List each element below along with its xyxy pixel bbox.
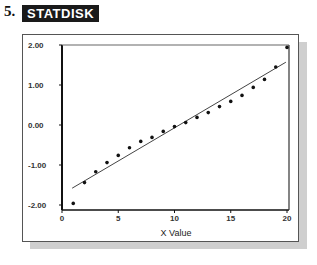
data-point: [263, 78, 267, 82]
x-tick-label: 5: [116, 214, 121, 223]
y-tick-label: -1.00: [28, 161, 47, 170]
data-point: [161, 130, 165, 134]
data-point: [173, 125, 177, 129]
data-point: [184, 121, 188, 125]
y-tick-label: 2.00: [28, 41, 44, 50]
data-point: [195, 116, 199, 120]
data-points: [71, 46, 288, 206]
data-point: [206, 111, 210, 115]
scatter-plot: 2.001.000.00-1.00-2.00 05101520 X Value: [0, 0, 317, 265]
data-point: [139, 140, 143, 144]
data-point: [274, 65, 278, 69]
data-point: [128, 146, 132, 150]
regression-line: [72, 62, 286, 188]
x-tick-label: 0: [60, 214, 65, 223]
data-point: [83, 181, 87, 185]
x-tick-label: 10: [170, 214, 179, 223]
data-point: [150, 136, 154, 140]
x-tick-label: 15: [226, 214, 235, 223]
x-tick-label: 20: [283, 214, 292, 223]
data-point: [71, 202, 75, 206]
x-axis-title: X Value: [161, 228, 192, 238]
data-point: [240, 94, 244, 98]
data-point: [105, 161, 109, 165]
data-point: [116, 154, 120, 158]
y-tick-label: 1.00: [28, 81, 44, 90]
data-point: [251, 86, 255, 90]
data-point: [218, 105, 222, 109]
y-tick-label: -2.00: [28, 201, 47, 210]
x-axis-ticks: 05101520: [60, 210, 292, 223]
y-tick-label: 0.00: [28, 121, 44, 130]
y-axis-ticks: 2.001.000.00-1.00-2.00: [28, 41, 62, 210]
data-point: [285, 46, 289, 50]
data-point: [229, 100, 233, 104]
data-point: [94, 170, 98, 174]
